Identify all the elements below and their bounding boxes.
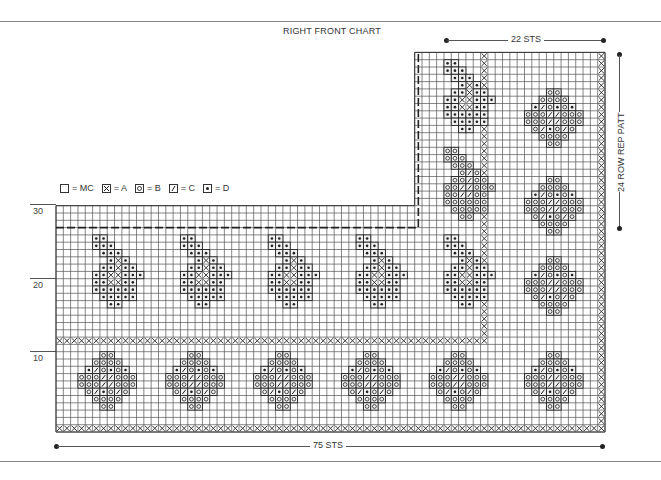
knitting-chart-grid (0, 0, 661, 480)
repeat-width-label: 22 STS (508, 34, 544, 44)
dim-end-dot (601, 38, 606, 43)
repeat-height-label: 24 ROW REP PATT (613, 112, 629, 192)
total-width-label: 75 STS (310, 440, 346, 450)
dim-end-dot (617, 226, 622, 231)
dim-end-dot (600, 444, 605, 449)
